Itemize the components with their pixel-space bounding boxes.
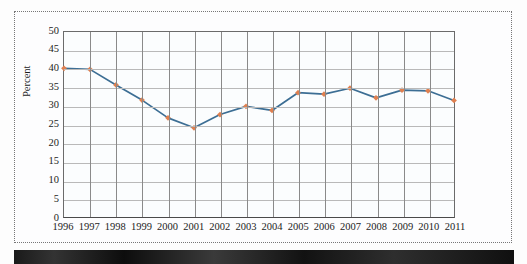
y-tick-25: 25 (37, 119, 59, 130)
vertical-gridline-2005 (299, 32, 300, 217)
plot-area (63, 31, 455, 218)
y-tick-5: 5 (37, 194, 59, 205)
vertical-gridline-1997 (90, 32, 91, 217)
vertical-gridline-2009 (404, 32, 405, 217)
y-tick-10: 10 (37, 175, 59, 186)
horizontal-gridline-5 (64, 200, 454, 201)
vertical-gridline-2006 (325, 32, 326, 217)
y-tick-50: 50 (37, 26, 59, 37)
horizontal-gridline-40 (64, 69, 454, 70)
vertical-gridline-2008 (378, 32, 379, 217)
vertical-gridline-2000 (169, 32, 170, 217)
vertical-gridline-1999 (142, 32, 143, 217)
y-tick-20: 20 (37, 138, 59, 149)
y-axis-label: Percent (21, 66, 32, 98)
y-tick-45: 45 (37, 44, 59, 55)
vertical-gridline-1998 (116, 32, 117, 217)
horizontal-gridline-35 (64, 88, 454, 89)
series-line-0 (64, 68, 454, 128)
vertical-gridline-2001 (195, 32, 196, 217)
horizontal-gridline-45 (64, 51, 454, 52)
horizontal-gridline-10 (64, 182, 454, 183)
x-axis-tick-labels: 1996199719981999200020012002200320042005… (63, 222, 455, 236)
y-tick-30: 30 (37, 100, 59, 111)
vertical-gridline-2007 (351, 32, 352, 217)
x-tick-2011: 2011 (435, 222, 475, 233)
data-series-line (64, 32, 454, 217)
horizontal-gridline-25 (64, 126, 454, 127)
page-scan-band (14, 250, 514, 264)
horizontal-gridline-20 (64, 144, 454, 145)
vertical-gridline-2004 (273, 32, 274, 217)
horizontal-gridline-30 (64, 107, 454, 108)
chart-figure: Percent 05101520253035404550 19961997199… (0, 0, 527, 264)
y-axis-tick-labels: 05101520253035404550 (33, 31, 59, 218)
y-tick-35: 35 (37, 82, 59, 93)
vertical-gridline-2010 (430, 32, 431, 217)
y-tick-15: 15 (37, 156, 59, 167)
vertical-gridline-2002 (221, 32, 222, 217)
vertical-gridline-2003 (247, 32, 248, 217)
y-tick-40: 40 (37, 63, 59, 74)
horizontal-gridline-15 (64, 163, 454, 164)
